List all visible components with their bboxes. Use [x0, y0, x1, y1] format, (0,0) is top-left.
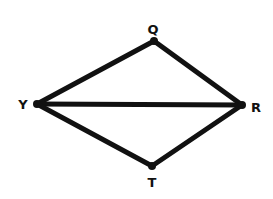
segments	[37, 41, 242, 166]
segment-qr	[154, 41, 242, 105]
segment-tr	[152, 105, 242, 166]
geometry-diagram: Q Y R T	[0, 0, 273, 199]
label-y: Y	[17, 97, 28, 112]
segment-yr	[37, 104, 242, 105]
label-q: Q	[147, 22, 158, 37]
segment-yt	[37, 104, 152, 166]
vertex-y	[33, 100, 41, 108]
segment-yq	[37, 41, 154, 104]
label-r: R	[251, 100, 261, 115]
label-t: T	[148, 175, 157, 190]
vertex-q	[150, 37, 158, 45]
vertex-r	[238, 101, 246, 109]
vertex-t	[148, 162, 156, 170]
